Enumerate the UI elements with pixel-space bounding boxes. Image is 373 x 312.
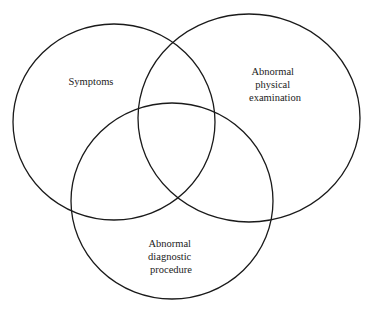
symptoms-label: Symptoms	[69, 76, 114, 87]
diagnostic-label-line: diagnostic	[148, 251, 191, 262]
physical-exam-label: Abnormal physical examination	[249, 66, 302, 103]
symptoms-label-line: Symptoms	[69, 76, 114, 87]
physical-exam-label-line: Abnormal	[251, 66, 294, 77]
physical-exam-label-line: physical	[255, 79, 290, 90]
diagnostic-label: Abnormal diagnostic procedure	[148, 238, 194, 275]
diagnostic-label-line: procedure	[150, 264, 192, 275]
set-physical-exam-circle	[138, 14, 360, 222]
diagnostic-label-line: Abnormal	[148, 238, 191, 249]
physical-exam-label-line: examination	[249, 92, 302, 103]
venn-diagram: Symptoms Abnormal physical examination A…	[0, 0, 373, 312]
set-symptoms-circle	[13, 24, 215, 220]
